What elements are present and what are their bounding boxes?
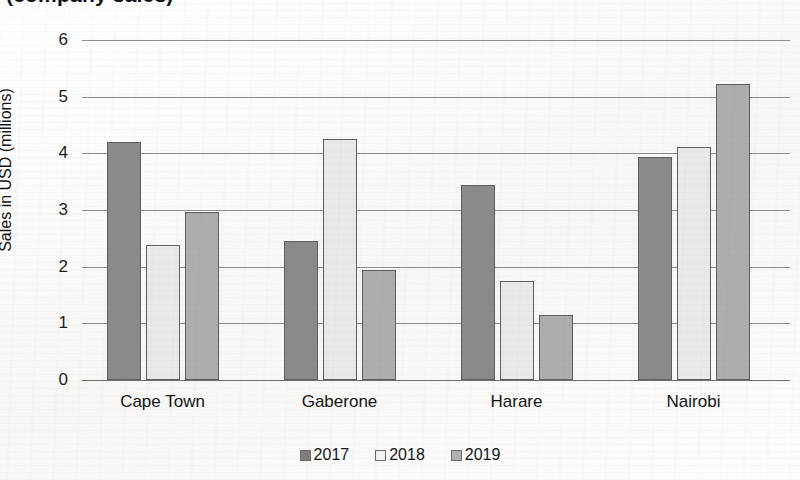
y-tick-label-2: 2 bbox=[28, 257, 68, 277]
bar-nairobi-2018 bbox=[677, 147, 711, 380]
legend-swatch-2018 bbox=[375, 450, 386, 461]
plot-area: 6543210 Cape TownGaberoneHarareNairobi bbox=[82, 40, 790, 380]
legend-label-2019: 2019 bbox=[465, 446, 501, 464]
x-category-label-gaberone: Gaberone bbox=[302, 392, 378, 412]
y-tick-label-3: 3 bbox=[28, 200, 68, 220]
y-tick-label-1: 1 bbox=[28, 313, 68, 333]
bar-gaberone-2019 bbox=[362, 270, 396, 381]
y-axis-title-label: Sales in USD (millions) bbox=[0, 88, 15, 252]
bar-gaberone-2017 bbox=[284, 241, 318, 380]
y-axis-title: Sales in USD (millions) bbox=[0, 0, 18, 340]
y-tick-label-6: 6 bbox=[28, 30, 68, 50]
y-tick-label-4: 4 bbox=[28, 143, 68, 163]
chart-legend: 201720182019 bbox=[0, 446, 800, 464]
bar-nairobi-2019 bbox=[716, 84, 750, 380]
y-tick-label-0: 0 bbox=[28, 370, 68, 390]
gridline-0 bbox=[82, 380, 790, 381]
legend-swatch-2017 bbox=[300, 450, 311, 461]
bar-nairobi-2017 bbox=[638, 157, 672, 380]
legend-label-2017: 2017 bbox=[314, 446, 350, 464]
bar-harare-2018 bbox=[500, 281, 534, 380]
bar-harare-2017 bbox=[461, 185, 495, 380]
x-category-label-harare: Harare bbox=[491, 392, 543, 412]
gridline-6 bbox=[82, 40, 790, 41]
bar-gaberone-2018 bbox=[323, 139, 357, 380]
gridline-5 bbox=[82, 97, 790, 98]
bar-cape-town-2018 bbox=[146, 245, 180, 380]
bar-cape-town-2019 bbox=[185, 212, 219, 380]
legend-item-2017[interactable]: 2017 bbox=[300, 446, 350, 464]
x-category-label-nairobi: Nairobi bbox=[667, 392, 721, 412]
y-tick-label-5: 5 bbox=[28, 87, 68, 107]
x-category-label-cape-town: Cape Town bbox=[120, 392, 205, 412]
bar-harare-2019 bbox=[539, 315, 573, 380]
legend-swatch-2019 bbox=[451, 450, 462, 461]
chart-title: (company sales) bbox=[6, 0, 174, 7]
legend-item-2019[interactable]: 2019 bbox=[451, 446, 501, 464]
chart-title-clip: (company sales) bbox=[0, 0, 800, 12]
legend-item-2018[interactable]: 2018 bbox=[375, 446, 425, 464]
bar-cape-town-2017 bbox=[107, 142, 141, 380]
legend-label-2018: 2018 bbox=[389, 446, 425, 464]
